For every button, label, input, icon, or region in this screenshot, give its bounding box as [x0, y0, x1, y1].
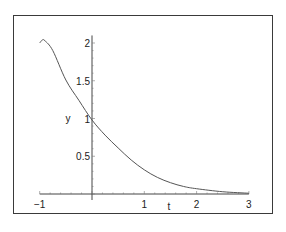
y-tick-label: 1.5	[76, 76, 90, 87]
y-axis-label: y	[66, 113, 71, 124]
x-tick-label: 1	[142, 199, 148, 210]
y-tick-label: 1	[84, 114, 90, 125]
y-tick-label: 2	[84, 38, 90, 49]
data-line	[40, 40, 249, 194]
x-tick-label: 3	[246, 199, 252, 210]
tick-labels: −11230.511.52	[34, 38, 252, 210]
axes	[40, 35, 249, 200]
x-tick-label: −1	[34, 199, 46, 210]
x-axis-label: t	[168, 201, 171, 212]
y-tick-label: 0.5	[76, 151, 90, 162]
x-tick-label: 2	[194, 199, 200, 210]
line-chart: −11230.511.52 t y	[0, 0, 286, 232]
